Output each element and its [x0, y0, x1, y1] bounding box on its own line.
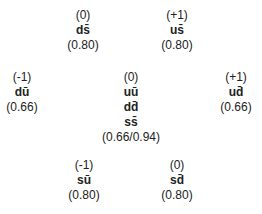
value-label: (0.80) [68, 188, 99, 203]
node-us: (+1) us̄ (0.80) [161, 8, 192, 53]
value-label: (0.80) [161, 38, 192, 53]
charge-label: (0) [161, 158, 192, 173]
node-ds: (0) ds̄ (0.80) [67, 8, 98, 53]
value-label: (0.66/0.94) [102, 130, 160, 145]
quark-content: dū [6, 85, 37, 100]
value-label: (0.66) [220, 100, 251, 115]
quark-content: ud̄ [220, 85, 251, 100]
quark-content-ss: ss̄ [102, 115, 160, 130]
value-label: (0.66) [6, 100, 37, 115]
quark-content: us̄ [161, 23, 192, 38]
charge-label: (-1) [68, 158, 99, 173]
charge-label: (-1) [6, 70, 37, 85]
value-label: (0.80) [67, 38, 98, 53]
quark-content-dd: dd̄ [102, 100, 160, 115]
charge-label: (+1) [220, 70, 251, 85]
quark-content: sū [68, 173, 99, 188]
node-ud: (+1) ud̄ (0.66) [220, 70, 251, 115]
charge-label: (0) [67, 8, 98, 23]
charge-label: (0) [102, 70, 160, 85]
node-du: (-1) dū (0.66) [6, 70, 37, 115]
charge-label: (+1) [161, 8, 192, 23]
node-sd: (0) sd̄ (0.80) [161, 158, 192, 203]
node-su: (-1) sū (0.80) [68, 158, 99, 203]
node-center: (0) uū dd̄ ss̄ (0.66/0.94) [102, 70, 160, 145]
value-label: (0.80) [161, 188, 192, 203]
quark-content: ds̄ [67, 23, 98, 38]
quark-content-uu: uū [102, 85, 160, 100]
quark-content: sd̄ [161, 173, 192, 188]
